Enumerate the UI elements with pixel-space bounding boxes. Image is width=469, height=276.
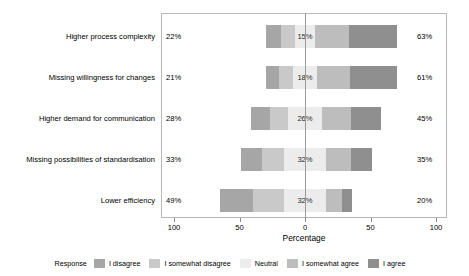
chart-row: Lower efficiency49%20%32% xyxy=(0,180,469,221)
likert-chart: Higher process complexity22%63%15%Missin… xyxy=(0,0,469,276)
bar-segment xyxy=(315,25,349,48)
bar-segment xyxy=(253,189,284,212)
bar-segment xyxy=(351,148,372,171)
legend-swatch-icon xyxy=(287,259,298,268)
bar-segment xyxy=(326,148,351,171)
bar-segment xyxy=(281,25,295,48)
axis-tick-label: 0 xyxy=(285,223,325,232)
legend-label: I disagree xyxy=(109,259,141,268)
axis-tick-label: 100 xyxy=(416,223,456,232)
bar-segment xyxy=(350,66,397,89)
chart-row: Higher demand for communication28%45%26% xyxy=(0,98,469,139)
bar-segment xyxy=(251,107,269,130)
bar-area: 26% xyxy=(161,98,447,139)
bar-segment xyxy=(342,189,352,212)
axis-tick xyxy=(174,218,175,222)
axis-tick-label: 100 xyxy=(154,223,194,232)
legend-item[interactable]: I disagree xyxy=(94,259,141,268)
category-label: Higher process complexity xyxy=(0,16,155,57)
legend-swatch-icon xyxy=(149,259,160,268)
legend-swatch-icon xyxy=(240,259,251,268)
legend-item[interactable]: I somewhat agree xyxy=(287,259,359,268)
bar-area: 15% xyxy=(161,16,447,57)
category-label: Higher demand for communication xyxy=(0,98,155,139)
bar-segment xyxy=(266,25,280,48)
bar-segment xyxy=(220,189,253,212)
bar-segment xyxy=(266,66,279,89)
legend-swatch-icon xyxy=(94,259,105,268)
chart-row: Missing willingness for changes21%61%18% xyxy=(0,57,469,98)
axis-tick xyxy=(240,218,241,222)
bar-segment xyxy=(349,25,397,48)
bar-segment xyxy=(279,66,293,89)
category-label: Lower efficiency xyxy=(0,180,155,221)
bar-area: 32% xyxy=(161,180,447,221)
legend-label: I somewhat disagree xyxy=(164,259,230,268)
legend-label: I somewhat agree xyxy=(302,259,359,268)
axis-tick xyxy=(305,218,306,222)
legend-label: I agree xyxy=(383,259,405,268)
bar-area: 18% xyxy=(161,57,447,98)
zero-reference-line xyxy=(305,13,306,218)
bar-segment xyxy=(322,107,351,130)
legend-title: Response xyxy=(55,259,87,268)
axis-tick-label: 50 xyxy=(220,223,260,232)
axis-tick xyxy=(436,218,437,222)
bar-segment xyxy=(241,148,262,171)
legend-item[interactable]: I somewhat disagree xyxy=(149,259,230,268)
axis-tick-label: 50 xyxy=(351,223,391,232)
legend-label: Neutral xyxy=(255,259,278,268)
bar-segment xyxy=(262,148,284,171)
axis-tick xyxy=(371,218,372,222)
legend-item[interactable]: I agree xyxy=(368,259,405,268)
bar-segment xyxy=(317,66,350,89)
chart-row: Higher process complexity22%63%15% xyxy=(0,16,469,57)
bar-segment xyxy=(351,107,381,130)
category-label: Missing willingness for changes xyxy=(0,57,155,98)
bar-segment xyxy=(270,107,288,130)
category-label: Missing possibilities of standardisation xyxy=(0,139,155,180)
legend-item[interactable]: Neutral xyxy=(240,259,278,268)
bar-area: 32% xyxy=(161,139,447,180)
x-axis-title: Percentage xyxy=(161,233,447,243)
bar-segment xyxy=(326,189,342,212)
chart-legend: Response I disagreeI somewhat disagreeNe… xyxy=(0,256,469,270)
legend-swatch-icon xyxy=(368,259,379,268)
chart-row: Missing possibilities of standardisation… xyxy=(0,139,469,180)
